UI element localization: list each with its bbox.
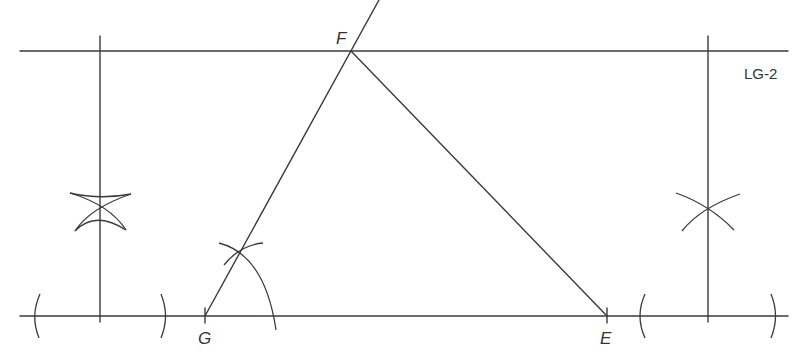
point-label-E: E bbox=[600, 329, 612, 348]
point-label-F: F bbox=[336, 29, 348, 48]
figure-tag: LG-2 bbox=[744, 65, 777, 82]
side-GF-extended bbox=[205, 0, 379, 316]
side-FE bbox=[351, 51, 607, 316]
geometric-construction-diagram: F G E LG-2 bbox=[0, 0, 801, 351]
point-label-G: G bbox=[198, 329, 211, 348]
angle-arc-at-G bbox=[219, 243, 276, 330]
